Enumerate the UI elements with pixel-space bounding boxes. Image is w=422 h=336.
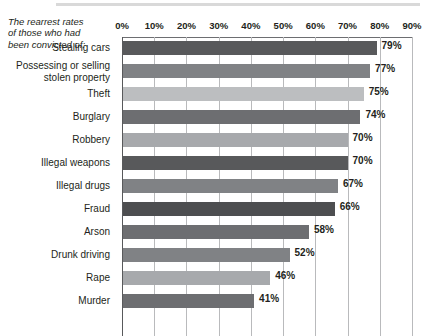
x-axis-tick-30: 30% xyxy=(209,20,228,31)
bar-row: 67% xyxy=(122,175,412,198)
bar-row: 52% xyxy=(122,244,412,267)
y-axis-line xyxy=(122,37,123,336)
bar-rows: 79%77%75%74%70%70%67%66%58%52%46%41% xyxy=(122,37,412,336)
category-label-possessing-or-selling-stolen-property: Possessing or selling stolen property xyxy=(0,60,110,83)
bar-stealing-cars xyxy=(122,41,377,55)
bar-burglary xyxy=(122,110,360,124)
bar-row: 77% xyxy=(122,60,412,83)
bar-row: 46% xyxy=(122,267,412,290)
category-label-fraud: Fraud xyxy=(0,203,110,215)
bar-value-label: 70% xyxy=(353,155,373,166)
x-axis-tick-50: 50% xyxy=(274,20,293,31)
bar-row: 70% xyxy=(122,129,412,152)
x-axis-tick-40: 40% xyxy=(241,20,260,31)
gridline-90 xyxy=(412,37,413,336)
category-label-theft: Theft xyxy=(0,88,110,100)
bar-row: 41% xyxy=(122,290,412,313)
x-axis-tick-20: 20% xyxy=(177,20,196,31)
chart-title-line-1: The rearrest rates xyxy=(8,16,116,27)
category-label-stealing-cars: Stealing cars xyxy=(0,42,110,54)
bar-arson xyxy=(122,225,309,239)
x-axis-tick-labels: 0%10%20%30%40%50%60%70%80%90% xyxy=(122,20,412,34)
x-axis-tick-10: 10% xyxy=(145,20,164,31)
bar-value-label: 52% xyxy=(295,247,315,258)
bar-row: 75% xyxy=(122,83,412,106)
bar-value-label: 41% xyxy=(259,293,279,304)
bar-row: 70% xyxy=(122,152,412,175)
bar-value-label: 75% xyxy=(369,86,389,97)
category-label-arson: Arson xyxy=(0,226,110,238)
bar-value-label: 66% xyxy=(340,201,360,212)
bar-theft xyxy=(122,87,364,101)
x-axis-tick-0: 0% xyxy=(115,20,129,31)
category-label-rape: Rape xyxy=(0,272,110,284)
bar-fraud xyxy=(122,202,335,216)
plot-area: 79%77%75%74%70%70%67%66%58%52%46%41% xyxy=(122,37,412,336)
bar-murder xyxy=(122,294,254,308)
bar-value-label: 67% xyxy=(343,178,363,189)
category-axis-labels: Stealing carsPossessing or selling stole… xyxy=(0,37,116,336)
bar-illegal-drugs xyxy=(122,179,338,193)
bar-value-label: 74% xyxy=(365,109,385,120)
bar-possessing-or-selling-stolen-property xyxy=(122,64,370,78)
x-axis-tick-90: 90% xyxy=(402,20,421,31)
x-axis-tick-60: 60% xyxy=(306,20,325,31)
category-label-robbery: Robbery xyxy=(0,134,110,146)
bar-row: 58% xyxy=(122,221,412,244)
bar-value-label: 58% xyxy=(314,224,334,235)
bar-row: 79% xyxy=(122,37,412,60)
category-label-illegal-weapons: Illegal weapons xyxy=(0,157,110,169)
category-label-illegal-drugs: Illegal drugs xyxy=(0,180,110,192)
category-label-burglary: Burglary xyxy=(0,111,110,123)
category-label-murder: Murder xyxy=(0,295,110,307)
x-axis-tick-80: 80% xyxy=(370,20,389,31)
x-axis-tick-70: 70% xyxy=(338,20,357,31)
bar-drunk-driving xyxy=(122,248,290,262)
bar-row: 66% xyxy=(122,198,412,221)
bar-value-label: 70% xyxy=(353,132,373,143)
bar-row: 74% xyxy=(122,106,412,129)
bar-illegal-weapons xyxy=(122,156,348,170)
top-divider-rule xyxy=(56,3,420,6)
bar-robbery xyxy=(122,133,348,147)
bar-value-label: 77% xyxy=(375,63,395,74)
bar-rape xyxy=(122,271,270,285)
bar-value-label: 79% xyxy=(382,40,402,51)
category-label-drunk-driving: Drunk driving xyxy=(0,249,110,261)
bar-value-label: 46% xyxy=(275,270,295,281)
